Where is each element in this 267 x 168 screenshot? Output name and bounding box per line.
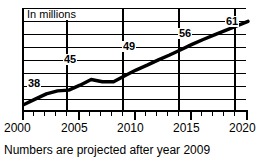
- tick-minor: [178, 112, 179, 116]
- data-label-38: 38: [27, 78, 41, 89]
- tick-minor: [122, 112, 123, 116]
- tick-major: [246, 112, 248, 120]
- tick-minor: [201, 112, 202, 116]
- tick-minor: [100, 112, 101, 116]
- chart-caption: Numbers are projected after year 2009: [4, 144, 210, 156]
- tick-minor: [44, 112, 45, 116]
- tick-minor: [212, 112, 213, 116]
- tick-minor: [145, 112, 146, 116]
- tick-minor: [156, 112, 157, 116]
- tick-major: [22, 112, 24, 120]
- unit-label: In millions: [26, 9, 77, 20]
- data-series-line: [22, 8, 250, 112]
- tick-major: [134, 112, 136, 120]
- data-label-61: 61: [225, 16, 239, 27]
- tick-minor: [223, 112, 224, 116]
- tick-major: [78, 112, 80, 120]
- tick-minor: [66, 112, 67, 116]
- x-tick-label-2015: 2015: [173, 122, 200, 134]
- data-label-49: 49: [122, 41, 136, 52]
- tick-minor: [55, 112, 56, 116]
- x-tick-label-2005: 2005: [61, 122, 88, 134]
- x-tick-label-2020: 2020: [229, 122, 256, 134]
- data-label-45: 45: [63, 54, 77, 65]
- tick-minor: [33, 112, 34, 116]
- data-label-56: 56: [178, 28, 192, 39]
- x-tick-label-2000: 2000: [4, 122, 31, 134]
- x-tick-label-2010: 2010: [117, 122, 144, 134]
- chart-container: In millions 38 45 49 56 61 2000 2005 201…: [0, 0, 267, 168]
- tick-minor: [234, 112, 235, 116]
- tick-minor: [89, 112, 90, 116]
- tick-minor: [167, 112, 168, 116]
- tick-major: [190, 112, 192, 120]
- tick-minor: [111, 112, 112, 116]
